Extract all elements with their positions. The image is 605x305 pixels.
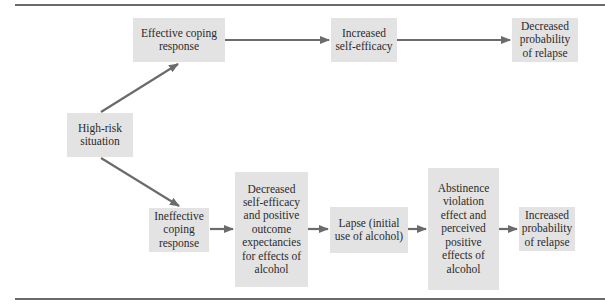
node-lapse: Lapse (initial use of alcohol) [330,207,408,253]
node-high-risk-situation: High-risk situation [67,113,133,157]
node-effective-coping-response: Effective coping response [133,18,225,62]
arrow-high-risk-to-ineffective [101,158,179,206]
node-ineffective-coping-response: Ineffective coping response [149,208,209,252]
node-abstinence-violation-effect: Abstinence violation effect and perceive… [428,168,499,290]
node-decreased-self-efficacy: Decreased self-efficacy and positive out… [235,172,308,287]
node-decreased-probability-of-relapse: Decreased probability of relapse [512,18,578,62]
node-increased-probability-of-relapse: Increased probability of relapse [519,207,575,251]
arrow-high-risk-to-effective [101,64,178,112]
node-increased-self-efficacy: Increased self-efficacy [331,18,397,62]
